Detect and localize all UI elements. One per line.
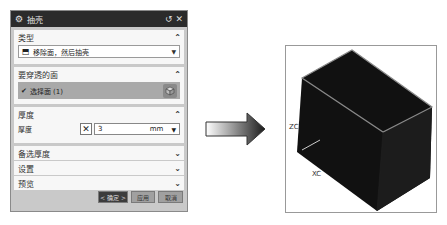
section-settings[interactable]: 设置 ⌄ [14, 161, 184, 175]
cancel-button[interactable]: 取消 [158, 191, 183, 203]
formula-icon[interactable]: ✕ [80, 123, 92, 135]
thickness-value: 3 [98, 125, 150, 133]
close-icon[interactable]: ✕ [175, 14, 183, 24]
section-settings-header: 设置 ⌄ [14, 161, 184, 175]
thickness-input[interactable]: 3 mm ▼ [94, 123, 180, 135]
chevron-up-icon[interactable]: ⌃ [174, 33, 181, 42]
type-dropdown-value: 移除面，然后抽壳 [33, 47, 172, 57]
dialog-title: 抽壳 [27, 14, 162, 25]
section-type-header[interactable]: 类型 ⌃ [14, 30, 184, 44]
dialog-titlebar[interactable]: ⚙ 抽壳 ↺ ✕ [11, 11, 187, 27]
shell-dialog: ⚙ 抽壳 ↺ ✕ 类型 ⌃ ⬒ 移除面，然后抽壳 ▼ 要穿透的面 ⌃ ✔ 选择面… [10, 10, 188, 212]
section-alt-thickness[interactable]: 备选厚度 ⌄ [14, 146, 184, 160]
chevron-down-icon[interactable]: ⌄ [174, 149, 181, 158]
dropdown-arrow-icon: ▼ [171, 48, 176, 55]
right-arrow-icon [205, 112, 267, 150]
thickness-row: 厚度 ✕ 3 mm ▼ [14, 121, 184, 137]
section-alt-thickness-label: 备选厚度 [18, 148, 50, 159]
face-select-cube-icon[interactable] [163, 84, 177, 98]
gear-icon: ⚙ [15, 14, 23, 24]
shell-icon: ⬒ [22, 47, 30, 56]
ok-button[interactable]: < 确定 > [98, 191, 128, 203]
thickness-unit: mm [150, 125, 164, 133]
3d-viewport[interactable]: ZC XC [285, 45, 437, 213]
section-type-label: 类型 [18, 32, 34, 43]
shelled-box-model [285, 45, 437, 213]
section-alt-thickness-header: 备选厚度 ⌄ [14, 146, 184, 160]
dropdown-arrow-icon[interactable]: ▼ [171, 126, 176, 133]
section-faces-header[interactable]: 要穿透的面 ⌃ [14, 67, 184, 81]
section-faces: 要穿透的面 ⌃ ✔ 选择面 (1) [14, 67, 184, 104]
section-thickness-label: 厚度 [18, 109, 34, 120]
axis-label-x: XC [312, 170, 321, 178]
checkmark-icon: ✔ [21, 87, 27, 95]
button-bar: < 确定 > 应用 取消 [14, 186, 184, 210]
axis-label-z: ZC [289, 123, 299, 131]
section-faces-label: 要穿透的面 [18, 69, 58, 80]
thickness-field-label: 厚度 [18, 124, 80, 134]
type-dropdown[interactable]: ⬒ 移除面，然后抽壳 ▼ [18, 45, 180, 58]
chevron-up-icon[interactable]: ⌃ [174, 70, 181, 79]
chevron-down-icon[interactable]: ⌄ [174, 164, 181, 173]
select-face-label: 选择面 (1) [30, 86, 163, 96]
section-thickness: 厚度 ⌃ 厚度 ✕ 3 mm ▼ [14, 107, 184, 143]
reset-icon[interactable]: ↺ [165, 14, 173, 24]
apply-button[interactable]: 应用 [131, 191, 155, 203]
section-thickness-header[interactable]: 厚度 ⌃ [14, 107, 184, 121]
chevron-up-icon[interactable]: ⌃ [174, 110, 181, 119]
section-type: 类型 ⌃ ⬒ 移除面，然后抽壳 ▼ [14, 30, 184, 64]
select-face-row[interactable]: ✔ 选择面 (1) [18, 82, 180, 99]
section-settings-label: 设置 [18, 163, 34, 174]
